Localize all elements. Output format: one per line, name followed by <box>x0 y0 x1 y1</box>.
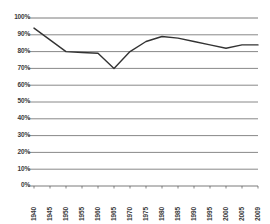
x-axis-label-1990: 1990 <box>191 207 198 221</box>
x-axis-label-1980: 1980 <box>159 207 166 221</box>
y-axis-label-50%: 50% <box>18 98 30 105</box>
y-axis-label-80%: 80% <box>18 48 30 55</box>
x-axis-label-2005: 2005 <box>239 207 246 221</box>
x-axis-label-1955: 1955 <box>79 207 86 221</box>
y-axis-label-60%: 60% <box>18 82 30 89</box>
x-axis-label-1940: 1940 <box>31 207 38 221</box>
y-axis-label-70%: 70% <box>18 65 30 72</box>
series-1-line <box>34 28 258 68</box>
y-axis-label-90%: 90% <box>18 31 30 38</box>
x-axis-label-1985: 1985 <box>175 207 182 221</box>
x-axis-label-1960: 1960 <box>95 207 102 221</box>
x-axis-label-1950: 1950 <box>63 207 70 221</box>
y-axis-label-20%: 20% <box>18 149 30 156</box>
y-axis-label-30%: 30% <box>18 132 30 139</box>
x-axis-label-1965: 1965 <box>111 207 118 221</box>
x-axis-label-1995: 1995 <box>207 207 214 221</box>
chart-container: 0%10%20%30%40%50%60%70%80%90%100% 194019… <box>0 0 270 224</box>
y-axis-label-10%: 10% <box>18 166 30 173</box>
x-axis-label-1975: 1975 <box>143 207 150 221</box>
line-chart-plot <box>0 0 270 224</box>
x-axis-label-1970: 1970 <box>127 207 134 221</box>
x-axis-label-2000: 2000 <box>223 207 230 221</box>
y-axis-label-100%: 100% <box>14 14 30 21</box>
y-axis-label-0%: 0% <box>21 182 30 189</box>
y-axis-label-40%: 40% <box>18 115 30 122</box>
x-axis-label-2009: 2009 <box>255 207 261 221</box>
x-axis-label-1945: 1945 <box>47 207 54 221</box>
